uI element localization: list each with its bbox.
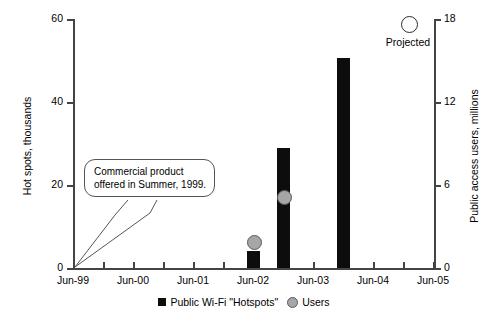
chart-legend: Public Wi-Fi "Hotspots" Users [0,296,488,308]
legend-item-hotspots: Public Wi-Fi "Hotspots" [158,296,278,308]
callout-line-2: offered in Summer, 1999. [94,178,206,191]
circle-marker-icon [287,297,298,308]
callout-pointer-lines [0,0,488,324]
plot-area: 60 40 20 0 18 12 6 0 Jun-99 [0,0,488,324]
callout-line-1: Commercial product [94,165,206,178]
legend-label-hotspots: Public Wi-Fi "Hotspots" [170,296,278,308]
legend-item-users: Users [287,296,329,308]
legend-label-users: Users [302,296,329,308]
square-marker-icon [158,298,166,306]
commercial-product-callout: Commercial product offered in Summer, 19… [84,159,215,197]
chart-container: 60 40 20 0 18 12 6 0 Jun-99 [0,0,488,324]
